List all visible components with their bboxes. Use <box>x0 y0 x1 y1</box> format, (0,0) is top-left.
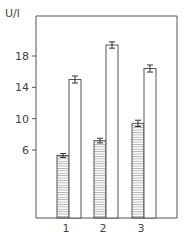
open-bar <box>69 80 81 219</box>
x-tick-label: 2 <box>100 222 107 235</box>
bars <box>57 42 156 218</box>
x-tick-label: 1 <box>63 222 70 235</box>
y-axis-ticks: 6101418 <box>15 50 36 157</box>
open-bar <box>144 69 156 218</box>
y-tick-label: 18 <box>15 50 29 63</box>
hatched-bar <box>132 123 144 218</box>
y-tick-label: 6 <box>22 144 29 157</box>
y-tick-label: 14 <box>15 81 29 94</box>
hatched-bar <box>57 155 69 218</box>
bar-chart: U/l 6101418 123 <box>0 0 188 241</box>
open-bar <box>106 45 118 218</box>
hatched-bar <box>94 141 106 218</box>
y-tick-label: 10 <box>15 113 29 126</box>
x-tick-label: 3 <box>138 222 145 235</box>
y-axis-label: U/l <box>5 7 20 20</box>
x-axis-labels: 123 <box>63 222 145 235</box>
